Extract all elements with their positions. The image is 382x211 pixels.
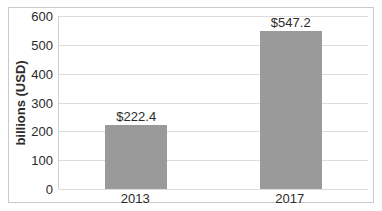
y-tick-label: 200 xyxy=(31,124,53,139)
y-tick-label: 300 xyxy=(31,95,53,110)
bar-value-label: $222.4 xyxy=(116,109,156,124)
y-tick-label: 600 xyxy=(31,9,53,24)
y-tick-label: 500 xyxy=(31,37,53,52)
gridline xyxy=(59,16,368,17)
y-axis-ticks: 0100200300400500600 xyxy=(9,16,53,189)
x-axis-labels: 20132017 xyxy=(58,191,367,207)
bar-2013 xyxy=(105,125,167,189)
figure: billions (USD) 0100200300400500600 $222.… xyxy=(0,0,382,211)
bar-2017 xyxy=(260,31,322,189)
chart-frame: billions (USD) 0100200300400500600 $222.… xyxy=(8,7,374,203)
plot-area: $222.4$547.2 xyxy=(58,16,368,189)
x-tick-label: 2017 xyxy=(275,191,304,206)
y-tick-label: 0 xyxy=(46,182,53,197)
bar-value-label: $547.2 xyxy=(271,15,311,30)
x-tick-label: 2013 xyxy=(121,191,150,206)
gridline xyxy=(59,189,368,190)
y-tick-label: 400 xyxy=(31,66,53,81)
y-tick-label: 100 xyxy=(31,153,53,168)
